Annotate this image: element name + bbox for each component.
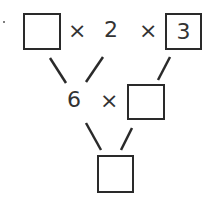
- connector-top-right: [158, 57, 170, 80]
- connector-middle-right: [121, 128, 132, 150]
- multiply-sign-top-1: ×: [68, 20, 86, 42]
- answer-box-top-left[interactable]: [23, 13, 61, 50]
- connector-top-left: [50, 58, 66, 83]
- value-box-top-right: 3: [165, 13, 202, 50]
- answer-box-middle-right[interactable]: [127, 84, 165, 120]
- value-middle-left: 6: [67, 89, 81, 111]
- connector-middle-left: [86, 123, 101, 150]
- multiplication-pyramid: × 2 × 3 6 ×: [0, 0, 204, 197]
- multiply-sign-top-2: ×: [139, 20, 157, 42]
- multiply-sign-middle: ×: [100, 90, 118, 112]
- connector-top-middle: [86, 57, 103, 82]
- value-top-middle: 2: [104, 19, 118, 41]
- answer-box-bottom[interactable]: [97, 155, 134, 193]
